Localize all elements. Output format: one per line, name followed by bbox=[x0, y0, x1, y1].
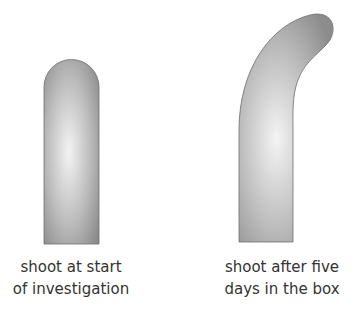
caption-line: days in the box bbox=[207, 278, 357, 300]
caption-shoot-start: shoot at start of investigation bbox=[0, 256, 146, 300]
caption-line: of investigation bbox=[0, 278, 146, 300]
caption-shoot-after: shoot after five days in the box bbox=[207, 256, 357, 300]
shoot-after-shape bbox=[239, 14, 333, 242]
caption-line: shoot after five bbox=[207, 256, 357, 278]
caption-line: shoot at start bbox=[0, 256, 146, 278]
shoot-start-shape bbox=[44, 59, 99, 244]
